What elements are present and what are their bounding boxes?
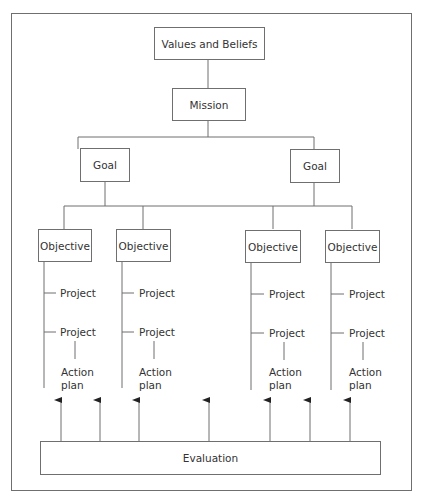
values-and-beliefs-node: Values and Beliefs [154, 27, 265, 60]
objective-label: Objective [119, 240, 169, 252]
values-and-beliefs-label: Values and Beliefs [162, 38, 258, 50]
objective-node-3: Objective [245, 230, 301, 263]
project-label: Project [139, 326, 175, 339]
goal-node-2: Goal [290, 149, 340, 183]
project-label: Project [60, 326, 96, 339]
objective-label: Objective [328, 241, 378, 253]
action-plan-label-line1: Action [349, 366, 382, 379]
project-label: Project [269, 288, 305, 301]
project-label: Project [60, 287, 96, 300]
goal-label: Goal [93, 159, 117, 171]
action-plan-label-line2: plan [349, 379, 372, 392]
project-label: Project [349, 327, 385, 340]
evaluation-node: Evaluation [40, 441, 381, 475]
objective-node-1: Objective [38, 229, 92, 262]
objective-node-4: Objective [325, 230, 380, 263]
goal-node-1: Goal [80, 148, 130, 182]
project-label: Project [139, 287, 175, 300]
action-plan-label-line1: Action [269, 366, 302, 379]
action-plan-label-line1: Action [61, 366, 94, 379]
action-plan-label-line1: Action [139, 366, 172, 379]
objective-label: Objective [40, 240, 90, 252]
objective-label: Objective [248, 241, 298, 253]
goal-label: Goal [303, 160, 327, 172]
project-label: Project [349, 288, 385, 301]
action-plan-label-line2: plan [269, 379, 292, 392]
action-plan-label-line2: plan [61, 379, 84, 392]
mission-label: Mission [190, 99, 229, 111]
project-label: Project [269, 327, 305, 340]
action-plan-label-line2: plan [139, 379, 162, 392]
mission-node: Mission [172, 88, 246, 121]
evaluation-label: Evaluation [183, 452, 238, 464]
objective-node-2: Objective [116, 229, 171, 262]
